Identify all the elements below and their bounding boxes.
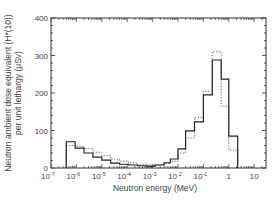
x-tick-label: 10-6 <box>67 171 81 181</box>
x-tick-label: 10-7 <box>41 171 55 181</box>
x-tick-label: 10-4 <box>117 171 131 181</box>
x-tick-label: 10-1 <box>194 171 208 181</box>
x-tick-label: 10-2 <box>168 171 182 181</box>
chart: 0100200300400 10-710-610-510-410-310-210… <box>0 0 280 201</box>
y-axis-ticks <box>51 18 266 168</box>
y-axis-tick-labels: 0100200300400 <box>35 14 49 173</box>
y-tick-label: 400 <box>35 14 49 23</box>
x-axis-title: Neutron energy (MeV) <box>113 183 197 193</box>
y-tick-label: 300 <box>35 52 49 61</box>
y-axis-title-line1: Neutron ambient dose equivalent (H*(10)) <box>3 14 13 172</box>
y-tick-label: 200 <box>35 89 49 98</box>
x-tick-label: 10-3 <box>143 171 157 181</box>
solid-series <box>66 60 237 168</box>
plot-frame <box>51 18 266 168</box>
x-tick-label: 10 <box>250 172 259 181</box>
x-axis-ticks <box>51 18 262 168</box>
x-tick-label: 1 <box>227 172 232 181</box>
solid-histogram-line <box>66 60 237 168</box>
y-tick-label: 100 <box>35 127 49 136</box>
x-axis-tick-labels: 10-710-610-510-410-310-210-1110 <box>41 171 259 181</box>
y-axis-title: Neutron ambient dose equivalent (H*(10))… <box>3 14 23 172</box>
y-axis-title-line2: per unit lethargy (μSv) <box>13 51 23 135</box>
x-tick-label: 10-5 <box>92 171 106 181</box>
